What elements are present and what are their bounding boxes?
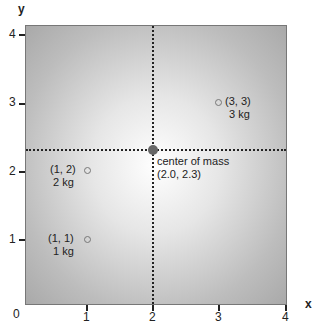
point-3-3: [215, 99, 222, 106]
point-1-2-coords: (1, 2): [50, 163, 76, 176]
x-axis-label: x: [305, 297, 312, 311]
point-3-3-coords: (3, 3): [225, 95, 251, 108]
y-tick-4: 4: [9, 28, 16, 41]
origin-label: 0: [13, 308, 20, 321]
cm-vertical-line: [152, 26, 154, 304]
y-tick-3: 3: [9, 96, 16, 109]
y-axis-label: y: [18, 2, 25, 16]
y-tick-mark-2: [19, 171, 25, 173]
y-tick-mark-3: [19, 103, 25, 105]
x-tick-1: 1: [83, 311, 90, 324]
y-tick-1: 1: [9, 233, 16, 246]
point-1-1: [84, 236, 91, 243]
point-3-3-mass: 3 kg: [229, 108, 250, 121]
y-tick-2: 2: [9, 165, 16, 178]
x-tick-4: 4: [282, 311, 289, 324]
center-of-mass-coords: (2.0, 2.3): [157, 168, 201, 181]
x-tick-3: 3: [215, 311, 222, 324]
x-tick-2: 2: [149, 311, 156, 324]
center-of-mass-point: [148, 145, 158, 155]
point-1-1-coords: (1, 1): [48, 232, 74, 245]
point-1-2: [84, 167, 91, 174]
point-1-1-mass: 1 kg: [53, 245, 74, 258]
y-tick-mark-1: [19, 239, 25, 241]
y-tick-mark-4: [19, 34, 25, 36]
center-of-mass-label: center of mass: [157, 155, 229, 168]
point-1-2-mass: 2 kg: [53, 176, 74, 189]
